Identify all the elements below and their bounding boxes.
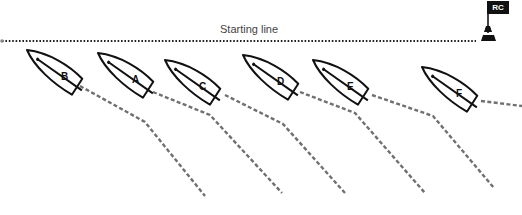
- boat-wake-c: [225, 95, 345, 193]
- rc-mark-top: [484, 26, 492, 32]
- boat-wake-f: [481, 101, 522, 106]
- boat-wake-a: [153, 92, 282, 193]
- boat-a: [91, 46, 160, 101]
- boat-e: [306, 53, 375, 108]
- boat-wake-e: [372, 95, 494, 188]
- boat-wake-d: [300, 92, 425, 193]
- boat-c: [158, 53, 227, 108]
- boat-f: [415, 60, 484, 115]
- boat-label-f: F: [456, 88, 462, 99]
- boat-b: [20, 43, 89, 98]
- rc-mark-base: [481, 35, 496, 41]
- start-diagram: BACDEF Starting line RC: [0, 0, 522, 215]
- boat-label-c: C: [199, 81, 206, 92]
- boat-label-d: D: [277, 76, 284, 87]
- rc-flag-label: RC: [487, 1, 509, 14]
- boat-label-b: B: [61, 71, 68, 82]
- boat-wake-b: [80, 86, 205, 196]
- pin-end-mark: [0, 39, 4, 43]
- boat-d: [236, 48, 305, 103]
- starting-line-label: Starting line: [220, 23, 278, 35]
- boat-label-a: A: [132, 74, 139, 85]
- boat-label-e: E: [347, 81, 354, 92]
